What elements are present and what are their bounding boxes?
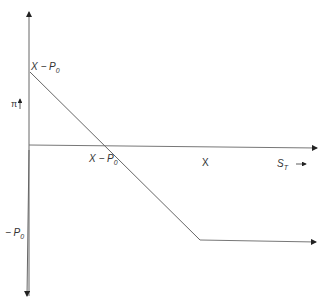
- neg-premium-label: − P0: [5, 227, 24, 240]
- payoff-chart: [0, 0, 323, 307]
- pi-label: π: [11, 99, 17, 109]
- strike-label: X: [202, 157, 209, 168]
- y-intercept-label: X − P0: [31, 61, 60, 74]
- st-label: ST: [277, 158, 288, 171]
- profit-flat: [200, 240, 316, 242]
- x-axis: [29, 145, 317, 148]
- x-intercept-label: X − P0: [89, 153, 118, 166]
